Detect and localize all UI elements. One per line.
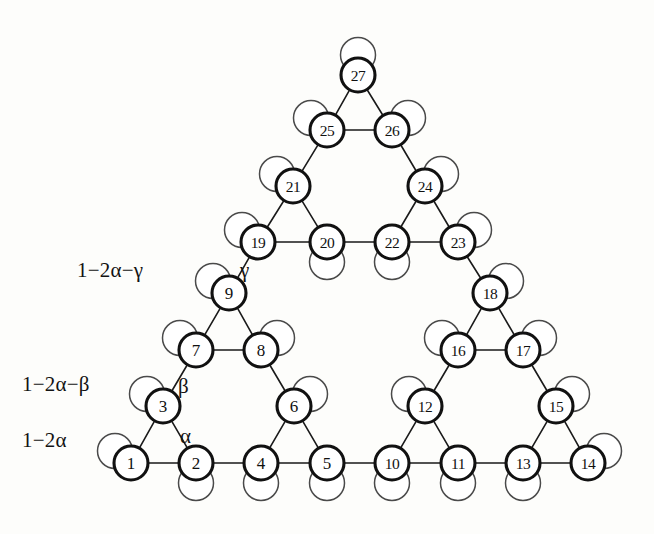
edge-label-gamma-edge: γ: [240, 258, 249, 283]
node-label: 2: [192, 454, 201, 473]
edge-20-21: [302, 200, 319, 228]
edge-1-3: [139, 420, 155, 448]
node-label: 6: [290, 397, 299, 416]
edge-6-8: [269, 364, 285, 392]
node-label: 27: [351, 67, 366, 84]
graph-node-20[interactable]: 20: [310, 225, 344, 259]
edge-12-16: [433, 364, 449, 392]
node-label: 14: [581, 455, 596, 472]
node-label: 12: [418, 398, 433, 415]
graph-node-1[interactable]: 1: [114, 446, 148, 480]
node-label: 8: [257, 341, 266, 360]
edge-16-18: [466, 307, 482, 335]
graph-node-16[interactable]: 16: [441, 333, 475, 367]
graph-node-2[interactable]: 2: [179, 446, 213, 480]
edge-22-24: [400, 200, 416, 228]
node-label: 7: [192, 341, 201, 360]
graph-node-19[interactable]: 19: [241, 225, 275, 259]
node-label: 9: [225, 284, 234, 303]
graph-node-15[interactable]: 15: [539, 389, 573, 423]
node-label: 19: [251, 234, 266, 251]
edge-18-23: [467, 256, 481, 279]
edge-13-15: [531, 420, 547, 448]
edge-26-27: [367, 89, 384, 116]
graph-node-27[interactable]: 27: [341, 58, 375, 92]
graph-node-10[interactable]: 10: [375, 446, 409, 480]
graph-node-12[interactable]: 12: [408, 389, 442, 423]
graph-node-18[interactable]: 18: [473, 276, 507, 310]
node-label: 15: [549, 398, 564, 415]
side-label-beta-row: 1−2α−β: [22, 372, 90, 397]
edge-5-6: [302, 420, 318, 448]
edge-4-6: [269, 420, 285, 448]
edge-8-9: [237, 307, 253, 335]
node-label: 5: [323, 454, 332, 473]
self-loops-layer: [98, 38, 622, 501]
graph-node-25[interactable]: 25: [310, 113, 344, 147]
node-label: 1: [127, 454, 136, 473]
graph-node-7[interactable]: 7: [179, 333, 213, 367]
graph-node-5[interactable]: 5: [310, 446, 344, 480]
graph-node-14[interactable]: 14: [571, 446, 605, 480]
node-label: 11: [451, 455, 465, 472]
node-label: 17: [516, 342, 531, 359]
edge-label-beta-edge: β: [178, 374, 189, 399]
side-label-alpha-row: 1−2α: [22, 428, 67, 453]
graph-node-21[interactable]: 21: [276, 169, 310, 203]
edge-21-25: [302, 144, 319, 172]
node-label: 10: [385, 455, 400, 472]
graph-node-8[interactable]: 8: [244, 333, 278, 367]
node-label: 3: [159, 397, 168, 416]
node-label: 18: [483, 285, 498, 302]
edge-24-26: [400, 144, 416, 172]
edge-25-27: [335, 89, 350, 115]
node-label: 20: [320, 234, 335, 251]
graph-node-4[interactable]: 4: [244, 446, 278, 480]
graph-node-23[interactable]: 23: [441, 225, 475, 259]
edge-7-9: [204, 307, 220, 335]
node-label: 21: [286, 178, 301, 195]
node-label: 4: [257, 454, 266, 473]
node-label: 16: [451, 342, 466, 359]
node-label: 25: [320, 122, 335, 139]
node-label: 13: [516, 455, 531, 472]
node-label: 24: [418, 178, 433, 195]
node-label: 22: [385, 234, 400, 251]
graph-node-17[interactable]: 17: [506, 333, 540, 367]
graph-node-26[interactable]: 26: [375, 113, 409, 147]
edge-11-12: [433, 420, 449, 448]
edge-14-15: [564, 420, 580, 448]
edge-label-alpha-edge: α: [180, 424, 191, 449]
side-label-gamma-row: 1−2α−γ: [77, 258, 143, 283]
graph-node-13[interactable]: 13: [506, 446, 540, 480]
edge-15-17: [531, 364, 547, 392]
figure-canvas: 1234567891011121314151617181920212223242…: [0, 0, 654, 534]
edge-23-24: [433, 200, 449, 228]
edge-10-12: [400, 420, 416, 448]
graph-node-11[interactable]: 11: [441, 446, 475, 480]
graph-node-6[interactable]: 6: [277, 389, 311, 423]
edge-17-18: [498, 307, 514, 335]
node-label: 23: [451, 234, 466, 251]
node-label: 26: [385, 122, 400, 139]
graph-node-22[interactable]: 22: [375, 225, 409, 259]
edge-19-21: [267, 200, 285, 228]
graph-node-3[interactable]: 3: [146, 389, 180, 423]
nodes-layer: 1234567891011121314151617181920212223242…: [114, 58, 605, 480]
graph-node-24[interactable]: 24: [408, 169, 442, 203]
